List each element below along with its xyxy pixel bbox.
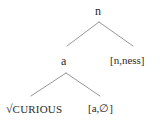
node-label-feature-a-null: [a,∅] (88, 103, 113, 114)
branch-n-to-a (67, 22, 99, 46)
node-label-n-root: n (95, 5, 101, 17)
branch-a-to-root (31, 73, 66, 96)
node-label-a: a (61, 55, 66, 67)
branch-n-to-feature-n (99, 22, 133, 46)
radical-sign-icon: √ (6, 102, 13, 116)
node-label-root-curious: √CURIOUS (6, 103, 62, 115)
syntax-tree-figure: n a [n,ness] √CURIOUS [a,∅] (0, 0, 162, 125)
branch-a-to-feature-a (66, 73, 100, 96)
root-stem-text: CURIOUS (13, 103, 63, 115)
node-label-feature-n-ness: [n,ness] (110, 55, 145, 66)
